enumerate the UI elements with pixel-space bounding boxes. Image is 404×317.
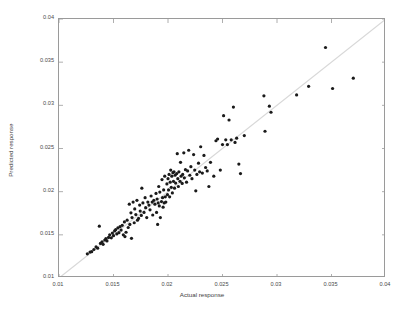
x-tick-label: 0.035 xyxy=(324,282,338,288)
x-tick-label: 0.03 xyxy=(271,282,282,288)
y-tick-label: 0.03 xyxy=(18,102,54,108)
y-tick-label: 0.04 xyxy=(18,15,54,21)
x-tick-label: 0.04 xyxy=(380,282,391,288)
y-axis-title: Predicted response xyxy=(8,100,14,200)
y-tick-label: 0.035 xyxy=(18,58,54,64)
x-tick-label: 0.02 xyxy=(162,282,173,288)
scatter-plot-figure: 0.010.0150.020.0250.030.0350.04 0.010.01… xyxy=(0,0,404,317)
plot-canvas xyxy=(59,19,385,277)
plot-area xyxy=(58,18,385,277)
y-tick-label: 0.01 xyxy=(18,274,54,280)
y-tick-label: 0.015 xyxy=(18,231,54,237)
y-tick-label: 0.025 xyxy=(18,145,54,151)
x-tick-label: 0.025 xyxy=(215,282,229,288)
x-axis-title: Actual response xyxy=(0,292,404,298)
y-tick-label: 0.02 xyxy=(18,188,54,194)
x-tick-label: 0.01 xyxy=(53,282,64,288)
x-tick-label: 0.015 xyxy=(106,282,120,288)
